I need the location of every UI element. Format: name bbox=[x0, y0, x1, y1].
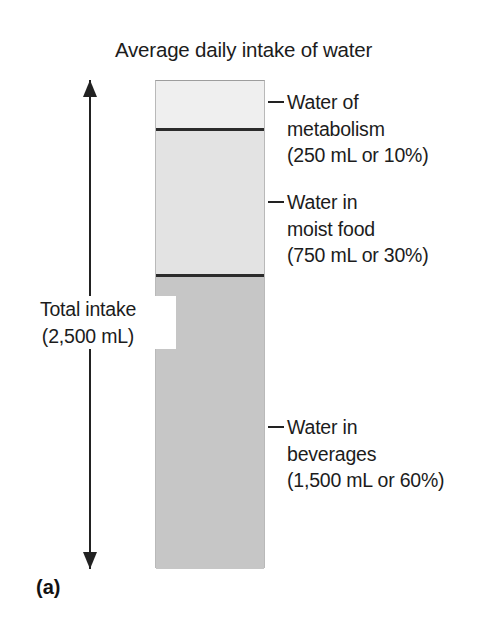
callout-water-in-beverages: Water in beverages (1,500 mL or 60%) bbox=[287, 414, 444, 494]
bar-segment-water-of-metabolism bbox=[156, 81, 264, 128]
arrow-head-down-icon bbox=[83, 552, 97, 569]
arrow-head-up-icon bbox=[83, 80, 97, 97]
callout-line-2: moist food bbox=[287, 216, 429, 243]
callout-water-of-metabolism: Water of metabolism (250 mL or 10%) bbox=[287, 89, 429, 169]
leader-line-water-in-beverages bbox=[268, 426, 284, 428]
panel-letter: (a) bbox=[36, 576, 60, 599]
callout-line-1: Water of bbox=[287, 89, 429, 116]
total-intake-value: (2,500 mL) bbox=[0, 323, 176, 350]
bar-segment-water-in-moist-food bbox=[156, 128, 264, 274]
total-intake-title: Total intake bbox=[0, 296, 176, 323]
total-intake-label: Total intake (2,500 mL) bbox=[0, 296, 176, 349]
callout-line-1: Water in bbox=[287, 189, 429, 216]
callout-line-2: beverages bbox=[287, 441, 444, 468]
callout-value: (250 mL or 10%) bbox=[287, 142, 429, 169]
callout-value: (750 mL or 30%) bbox=[287, 242, 429, 269]
callout-line-1: Water in bbox=[287, 414, 444, 441]
callout-line-2: metabolism bbox=[287, 116, 429, 143]
water-intake-figure: Average daily intake of water Water of m… bbox=[0, 0, 487, 625]
callout-water-in-moist-food: Water in moist food (750 mL or 30%) bbox=[287, 189, 429, 269]
leader-line-water-in-moist-food bbox=[268, 201, 284, 203]
callout-value: (1,500 mL or 60%) bbox=[287, 467, 444, 494]
page-title: Average daily intake of water bbox=[0, 38, 487, 62]
leader-line-water-of-metabolism bbox=[268, 101, 284, 103]
